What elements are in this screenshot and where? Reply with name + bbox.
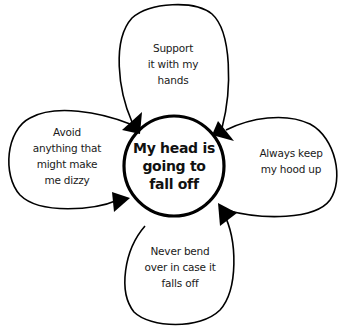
petal-left-line-3: might make	[22, 156, 112, 172]
petal-bottom-line-2: over in case it	[130, 259, 230, 275]
petal-bottom-line-3: falls off	[130, 275, 230, 291]
petal-bottom-text: Never bend over in case it falls off	[130, 243, 230, 291]
petal-right-line-2: my hood up	[246, 161, 336, 177]
center-line-1: My head is	[126, 139, 222, 157]
petal-top-text: Support it with my hands	[128, 40, 218, 88]
center-belief-text: My head is going to fall off	[126, 139, 222, 193]
petal-top-line-2: it with my	[128, 56, 218, 72]
petal-top-line-3: hands	[128, 72, 218, 88]
arrow-sw-icon	[112, 192, 130, 212]
petal-left-text: Avoid anything that might make me dizzy	[22, 124, 112, 188]
center-line-2: going to	[126, 157, 222, 175]
petal-left-line-1: Avoid	[22, 124, 112, 140]
petal-left-line-4: me dizzy	[22, 172, 112, 188]
diagram-canvas: Support it with my hands Always keep my …	[0, 0, 346, 330]
petal-top-line-1: Support	[128, 40, 218, 56]
arrow-nw-icon	[122, 112, 142, 134]
center-line-3: fall off	[126, 175, 222, 193]
petal-left-line-2: anything that	[22, 140, 112, 156]
petal-bottom-line-1: Never bend	[130, 243, 230, 259]
petal-right-text: Always keep my hood up	[246, 145, 336, 177]
petal-right-line-1: Always keep	[246, 145, 336, 161]
